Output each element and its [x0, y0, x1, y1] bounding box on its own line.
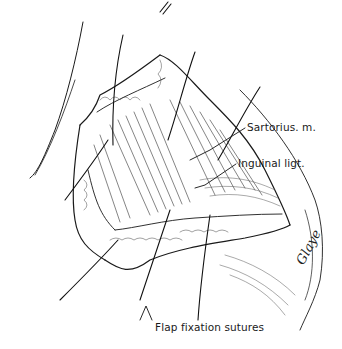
drawing [0, 0, 342, 349]
sartorius-muscle-label: Sartorius. m. [247, 121, 316, 133]
surgical-illustration: Sartorius. m. Inguinal ligt. Flap fixati… [0, 0, 342, 349]
inguinal-ligament-label: Inguinal ligt. [238, 157, 305, 169]
flap-fixation-sutures-label: Flap fixation sutures [155, 321, 264, 333]
